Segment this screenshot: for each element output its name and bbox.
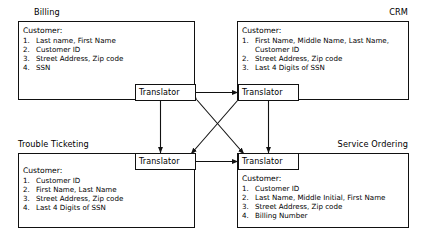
field-row: 3. Street Address, Zip code — [23, 54, 191, 63]
diagram-canvas: Billing Customer: 1. Last name, First Na… — [0, 0, 424, 239]
field-text: Last name, First Name — [36, 36, 191, 45]
customer-heading-crm: Customer: — [242, 26, 406, 35]
translator-trouble-ticketing[interactable]: Translator — [135, 153, 196, 170]
field-text: Last 4 Digits of SSN — [36, 203, 191, 212]
field-row: 3. Street Address, Zip code — [242, 202, 406, 211]
system-label-trouble-ticketing: Trouble Ticketing — [18, 139, 89, 149]
field-row: 4. Last 4 Digits of SSN — [23, 203, 191, 212]
field-row: 4. Billing Number — [242, 211, 406, 220]
field-number: 1. — [23, 36, 36, 45]
field-number: 4. — [242, 211, 255, 220]
field-text: Street Address, Zip code — [255, 202, 406, 211]
field-text: Street Address, Zip code — [36, 194, 191, 203]
translator-crm[interactable]: Translator — [238, 84, 299, 101]
field-row: 3. Street Address, Zip code — [23, 194, 191, 203]
connector-billing-service — [197, 100, 244, 154]
field-text: Street Address, Zip code — [36, 54, 191, 63]
field-number: 4. — [23, 203, 36, 212]
field-row: 2. Last Name, Middle Initial, First Name — [242, 193, 406, 202]
customer-heading-billing: Customer: — [23, 26, 191, 35]
field-text: Customer ID — [255, 184, 406, 193]
translator-billing[interactable]: Translator — [135, 84, 196, 101]
field-number: 3. — [242, 202, 255, 211]
connector-crm-trouble — [191, 100, 238, 154]
field-row: 2. First Name, Last Name — [23, 185, 191, 194]
field-row: 1. Last name, First Name — [23, 36, 191, 45]
system-content-service-ordering: Customer: 1. Customer ID 2. Last Name, M… — [242, 174, 406, 220]
field-number: 1. — [242, 184, 255, 193]
translator-service-ordering[interactable]: Translator — [238, 153, 299, 170]
system-content-billing: Customer: 1. Last name, First Name 2. Cu… — [23, 26, 191, 72]
field-number: 3. — [23, 194, 36, 203]
field-text: First Name, Last Name — [36, 185, 191, 194]
field-text: Customer ID — [36, 176, 191, 185]
field-text: Last Name, Middle Initial, First Name — [255, 193, 406, 202]
field-row: 2. Customer ID — [23, 45, 191, 54]
field-row: 4. SSN — [23, 63, 191, 72]
field-text: Street Address, Zip code — [255, 54, 406, 63]
field-row: 1. First Name, Middle Name, Last Name, C… — [242, 36, 406, 54]
field-number: 1. — [242, 36, 255, 54]
field-number: 2. — [242, 193, 255, 202]
field-number: 1. — [23, 176, 36, 185]
field-number: 3. — [23, 54, 36, 63]
customer-heading-service-ordering: Customer: — [242, 174, 406, 183]
field-text: Billing Number — [255, 211, 406, 220]
system-label-service-ordering: Service Ordering — [338, 139, 408, 149]
field-number: 4. — [23, 63, 36, 72]
system-label-crm: CRM — [389, 7, 408, 17]
field-text: SSN — [36, 63, 191, 72]
field-number: 2. — [242, 54, 255, 63]
field-text: First Name, Middle Name, Last Name, Cust… — [255, 36, 406, 54]
system-label-billing: Billing — [34, 7, 60, 17]
field-text: Customer ID — [36, 45, 191, 54]
field-number: 2. — [23, 45, 36, 54]
system-content-trouble-ticketing: Customer: 1. Customer ID 2. First Name, … — [23, 166, 191, 212]
system-content-crm: Customer: 1. First Name, Middle Name, La… — [242, 26, 406, 72]
field-row: 1. Customer ID — [242, 184, 406, 193]
field-row: 1. Customer ID — [23, 176, 191, 185]
field-row: 3. Last 4 Digits of SSN — [242, 63, 406, 72]
field-text: Last 4 Digits of SSN — [255, 63, 406, 72]
field-number: 3. — [242, 63, 255, 72]
field-number: 2. — [23, 185, 36, 194]
field-row: 2. Street Address, Zip code — [242, 54, 406, 63]
